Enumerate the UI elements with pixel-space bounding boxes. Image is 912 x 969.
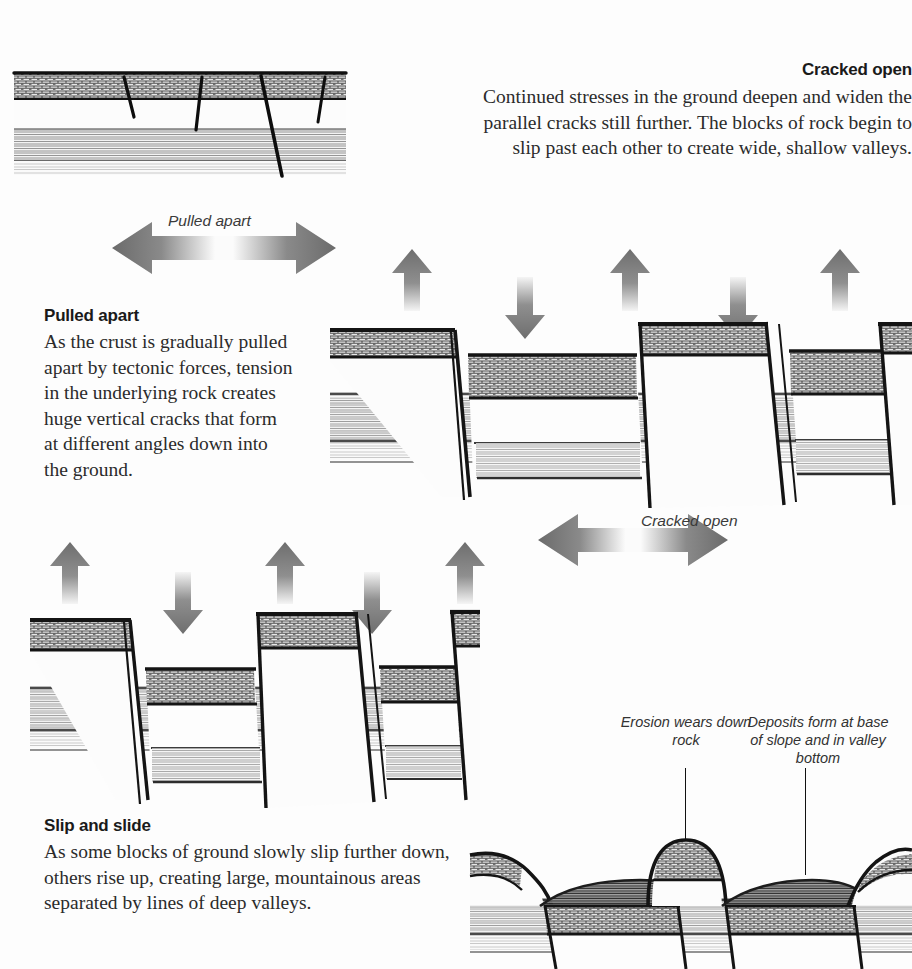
stage-2-motion-arrows — [392, 249, 860, 339]
up-arrow — [265, 542, 305, 604]
text-block-cracked-open: Cracked open Continued stresses in the g… — [468, 60, 912, 161]
leader-line-erosion — [685, 768, 686, 841]
callout-erosion-wears-down-rock: Erosion wears down rock — [618, 713, 754, 749]
body-cracked-open: Continued stresses in the ground deepen … — [468, 84, 912, 161]
stage-4-erosion-diagram — [470, 840, 912, 969]
stage-3-rift-diagram — [30, 612, 480, 808]
text-block-pulled-apart: Pulled apart As the crust is gradually p… — [44, 306, 294, 482]
heading-slip-and-slide: Slip and slide — [44, 816, 474, 836]
down-arrow — [505, 277, 545, 339]
arrow-caption-cracked-open: Cracked open — [641, 512, 738, 530]
leader-line-deposits — [805, 768, 806, 875]
up-arrow — [392, 249, 432, 311]
text-block-slip-and-slide: Slip and slide As some blocks of ground … — [44, 816, 474, 916]
callout-deposits-form: Deposits form at base of slope and in va… — [742, 713, 894, 767]
figure-canvas: Cracked open Continued stresses in the g… — [0, 0, 912, 969]
body-pulled-apart: As the crust is gradually pulled apart b… — [44, 329, 294, 482]
up-arrow — [610, 249, 650, 311]
up-arrow — [445, 542, 485, 604]
up-arrow — [50, 542, 90, 604]
stage-2-rift-diagram — [330, 322, 912, 508]
stage-1-flat-crust-diagram — [14, 73, 346, 176]
up-arrow — [820, 249, 860, 311]
heading-pulled-apart: Pulled apart — [44, 306, 294, 326]
heading-cracked-open: Cracked open — [468, 60, 912, 80]
body-slip-and-slide: As some blocks of ground slowly slip fur… — [44, 839, 474, 916]
down-arrow — [163, 572, 203, 634]
arrow-caption-pulled-apart: Pulled apart — [168, 212, 251, 230]
